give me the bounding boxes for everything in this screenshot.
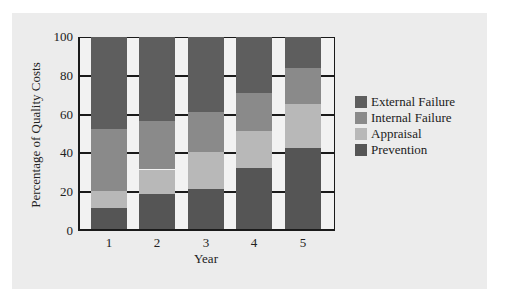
y-axis-label: Percentage of Quality Costs — [28, 62, 44, 208]
gridline-segment — [80, 191, 91, 193]
legend-label: External Failure — [371, 94, 455, 110]
gridline-segment — [272, 191, 285, 193]
segment-appraisal — [188, 152, 224, 188]
gridline-segment — [272, 152, 285, 154]
x-tick-label: 1 — [99, 235, 119, 251]
gridline-segment — [80, 75, 91, 77]
gridline-segment — [127, 114, 139, 116]
gridline-segment — [175, 75, 188, 77]
gridline-segment — [224, 191, 236, 193]
gridline-segment — [272, 114, 285, 116]
y-tick-label: 100 — [43, 30, 73, 44]
x-tick-label: 4 — [244, 235, 264, 251]
segment-internal-failure — [139, 121, 175, 169]
legend-swatch — [355, 96, 367, 108]
y-tick-label: 20 — [43, 185, 73, 199]
gridline-segment — [321, 152, 334, 154]
gridline-segment — [127, 75, 139, 77]
legend-swatch — [355, 128, 367, 140]
segment-appraisal — [236, 131, 272, 167]
legend: External Failure Internal Failure Apprai… — [355, 94, 455, 158]
gridline-segment — [272, 75, 285, 77]
segment-external-failure — [91, 37, 127, 129]
bar-year-1 — [91, 37, 127, 229]
gridline-segment — [80, 114, 91, 116]
segment-appraisal — [139, 170, 175, 195]
segment-external-failure — [285, 37, 321, 68]
x-tick-label: 3 — [196, 235, 216, 251]
segment-appraisal — [91, 191, 127, 208]
y-tick-label: 40 — [43, 146, 73, 160]
x-tick-label: 5 — [293, 235, 313, 251]
gridline-segment — [127, 152, 139, 154]
bar-year-4 — [236, 37, 272, 229]
bar-year-5 — [285, 37, 321, 229]
gridline-segment — [175, 191, 188, 193]
gridline-segment — [80, 152, 91, 154]
segment-prevention — [188, 189, 224, 229]
segment-internal-failure — [91, 129, 127, 190]
gridline-segment — [224, 152, 236, 154]
segment-internal-failure — [285, 68, 321, 104]
segment-prevention — [91, 208, 127, 229]
x-axis-label: Year — [194, 251, 218, 267]
segment-external-failure — [188, 37, 224, 112]
gridline-segment — [175, 152, 188, 154]
y-tick-label: 80 — [43, 69, 73, 83]
y-tick-label: 60 — [43, 108, 73, 122]
legend-label: Internal Failure — [371, 110, 452, 126]
x-tick-label: 2 — [147, 235, 167, 251]
bar-year-3 — [188, 37, 224, 229]
gridline-segment — [175, 114, 188, 116]
segment-prevention — [236, 168, 272, 229]
gridline-segment — [224, 75, 236, 77]
segment-internal-failure — [236, 93, 272, 131]
legend-item-prevention: Prevention — [355, 142, 455, 158]
legend-swatch — [355, 112, 367, 124]
legend-item-appraisal: Appraisal — [355, 126, 455, 142]
legend-label: Prevention — [371, 142, 427, 158]
plot-area — [78, 37, 335, 231]
legend-item-internal-failure: Internal Failure — [355, 110, 455, 126]
segment-prevention — [139, 194, 175, 229]
y-tick-label: 0 — [43, 224, 73, 238]
legend-item-external-failure: External Failure — [355, 94, 455, 110]
segment-internal-failure — [188, 112, 224, 152]
segment-appraisal — [285, 104, 321, 148]
segment-external-failure — [236, 37, 272, 93]
legend-label: Appraisal — [371, 126, 422, 142]
gridline-segment — [321, 75, 334, 77]
gridline-segment — [224, 114, 236, 116]
segment-prevention — [285, 148, 321, 229]
bar-year-2 — [139, 37, 175, 229]
gridline-segment — [321, 114, 334, 116]
gridline-segment — [127, 191, 139, 193]
segment-external-failure — [139, 37, 175, 121]
legend-swatch — [355, 144, 367, 156]
gridline-segment — [321, 191, 334, 193]
